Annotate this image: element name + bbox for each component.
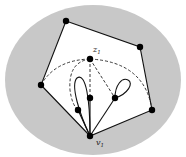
- vertex: [38, 82, 44, 88]
- vertex-v1: [87, 133, 93, 139]
- vertex: [63, 18, 69, 24]
- graph-diagram: z1 v1: [0, 0, 186, 157]
- vertex: [149, 107, 155, 113]
- vertex-z1: [87, 56, 93, 62]
- vertex: [75, 107, 81, 113]
- vertex: [112, 95, 118, 101]
- vertex: [87, 95, 93, 101]
- vertex: [137, 44, 143, 50]
